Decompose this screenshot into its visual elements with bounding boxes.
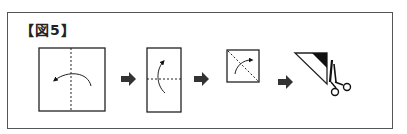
step-1-square-fold-vertical <box>39 48 105 111</box>
step-2-rectangle-fold-horizontal <box>147 48 181 112</box>
scissors-icon <box>330 60 351 96</box>
fold-arrow-icon <box>55 74 91 86</box>
cut-corner-fill <box>312 53 327 68</box>
fold-arrow-icon <box>158 62 165 93</box>
step-3-square-fold-diagonal <box>227 50 259 82</box>
folding-diagram <box>0 0 407 134</box>
step-4-triangle-cut <box>295 53 351 96</box>
next-step-arrow-icon <box>278 75 293 89</box>
next-step-arrow-icon <box>194 72 209 86</box>
next-step-arrow-icon <box>121 72 136 86</box>
